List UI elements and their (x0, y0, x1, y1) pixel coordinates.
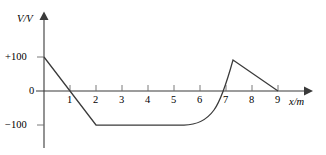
y-label-plus100: +100 (5, 51, 27, 62)
x-label-4: 4 (145, 94, 150, 105)
x-label-6: 6 (197, 94, 202, 105)
x-label-3: 3 (119, 94, 124, 105)
x-axis-arrow-icon (304, 87, 313, 96)
x-label-7: 7 (223, 94, 228, 105)
x-label-1: 1 (67, 94, 72, 105)
x-tick-marks (70, 85, 278, 91)
potential-vs-position-figure: V/V x/m +100 0 −100 1 2 3 4 5 6 7 8 9 (0, 0, 326, 155)
x-label-8: 8 (249, 94, 254, 105)
y-axis-group (40, 12, 49, 149)
x-label-2: 2 (93, 94, 98, 105)
y-label-zero: 0 (29, 85, 34, 96)
y-axis-arrow-icon (40, 12, 49, 21)
x-label-9: 9 (275, 94, 280, 105)
y-label-minus100: −100 (5, 119, 27, 130)
x-axis-title: x/m (289, 96, 304, 107)
y-axis-title: V/V (17, 13, 33, 24)
x-label-5: 5 (171, 94, 176, 105)
plot-canvas (0, 0, 326, 155)
